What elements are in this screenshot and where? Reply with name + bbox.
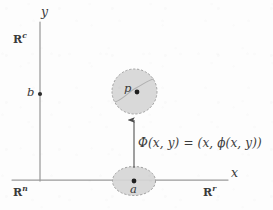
neighborhood-of-p-region — [112, 69, 157, 114]
point-p-label: p — [124, 83, 131, 95]
point-a-label: a — [130, 184, 137, 196]
space-label-rn: Rn — [13, 185, 28, 198]
space-label-rn-superscript: n — [22, 184, 28, 193]
point-b-dot — [38, 92, 42, 96]
point-p-dot — [135, 90, 140, 95]
figure-canvas: y x Rc Rn Rr b a p Φ(x, y) = (x, ϕ(x, y)… — [0, 0, 273, 210]
space-label-rn-symbol: R — [13, 186, 22, 199]
space-label-rc-superscript: c — [22, 31, 27, 40]
space-label-rr: Rr — [203, 185, 216, 198]
space-label-rr-superscript: r — [212, 184, 216, 193]
space-label-rc-symbol: R — [13, 33, 22, 46]
x-axis-label: x — [231, 167, 238, 180]
space-label-rc: Rc — [13, 32, 27, 45]
y-axis-label: y — [41, 6, 48, 19]
map-formula-label: Φ(x, y) = (x, ϕ(x, y)) — [138, 137, 262, 149]
space-label-rr-symbol: R — [203, 186, 212, 199]
point-b-label: b — [27, 87, 34, 99]
